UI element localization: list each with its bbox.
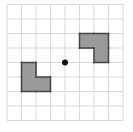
grid-diagram: [0, 0, 133, 132]
shape-cell: [22, 77, 37, 92]
shape-cell: [80, 34, 95, 49]
shape-cell: [22, 63, 37, 78]
shape-cell: [94, 34, 109, 49]
shape-cell: [36, 77, 51, 92]
right-l-shape: [80, 34, 110, 64]
left-l-shape: [22, 63, 52, 93]
rotation-center-point: [62, 60, 68, 66]
shape-cell: [94, 48, 109, 63]
